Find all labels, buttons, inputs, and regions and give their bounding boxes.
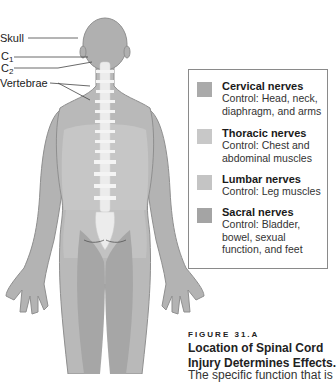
label-c1-main: C: [1, 50, 9, 62]
label-c2-main: C: [1, 62, 9, 74]
swatch-thoracic: [197, 129, 212, 144]
legend-title: Cervical nerves: [222, 80, 303, 92]
nerve-legend: Cervical nerves Control: Head, neck, dia…: [188, 69, 328, 269]
figure-title-line1: Location of Spinal Cord: [188, 341, 336, 356]
legend-desc: Control: Head, neck, diaphragm, and arms: [222, 92, 328, 117]
label-skull: Skull: [0, 32, 24, 44]
swatch-sacral: [197, 208, 212, 223]
label-vertebrae: Vertebrae: [0, 77, 48, 89]
legend-title: Thoracic nerves: [222, 127, 306, 139]
swatch-lumbar: [197, 175, 212, 190]
swatch-cervical: [197, 82, 212, 97]
figure-title: Location of Spinal Cord Injury Determine…: [188, 341, 336, 370]
label-c2-sub: 2: [9, 67, 13, 76]
figure-number: FIGURE 31.A: [188, 330, 259, 339]
legend-desc: Control: Chest and abdominal muscles: [222, 139, 328, 164]
legend-desc: Control: Bladder, bowel, sexual function…: [222, 218, 328, 256]
legend-desc: Control: Leg muscles: [222, 185, 328, 198]
legend-title: Lumbar nerves: [222, 173, 301, 185]
figure-text-cutoff: The specific function that is: [188, 368, 333, 382]
legend-title: Sacral nerves: [222, 206, 294, 218]
label-c2: C2: [1, 62, 13, 78]
